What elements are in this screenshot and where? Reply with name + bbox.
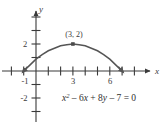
figure-background xyxy=(0,0,166,125)
equation-tail: – 7 = 0 xyxy=(107,93,136,103)
y-tick-label-2: 2 xyxy=(23,39,27,49)
y-tick-label-neg2: -2 xyxy=(20,93,27,103)
x-tick-label-3: 3 xyxy=(71,76,75,86)
equation-annotation: x2 – 6x + 8y – 7 = 0 xyxy=(61,92,136,103)
equation-text: x2 – 6x + 8y – 7 = 0 xyxy=(61,92,136,103)
x-tick-label-neg1: -1 xyxy=(21,76,28,86)
y-axis-label: y xyxy=(38,4,43,14)
vertex-point-marker xyxy=(71,42,75,46)
equation-rest: – 6 xyxy=(69,93,84,103)
graph-canvas: x -1 3 6 y 2 -2 xyxy=(0,0,166,125)
x-axis-label: x xyxy=(154,66,159,76)
equation-plus: + 8 xyxy=(88,93,103,103)
vertex-point-label: (3, 2) xyxy=(65,30,83,39)
parabola-figure: x -1 3 6 y 2 -2 xyxy=(0,0,166,125)
x-tick-label-6: 6 xyxy=(108,76,112,86)
